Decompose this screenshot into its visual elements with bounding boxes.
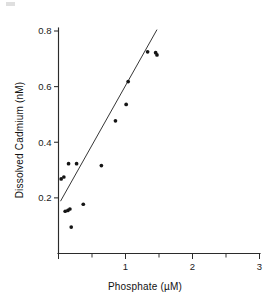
data-point [114,119,118,123]
data-point-group [59,50,159,229]
data-point [68,207,72,211]
data-point [146,50,150,54]
y-tick-label: 0.8 [38,25,51,36]
regression-line [61,30,157,202]
data-point [81,202,85,206]
data-point [75,162,79,166]
y-axis: 0.20.40.60.8 [38,25,58,253]
x-tick-label: 3 [257,261,262,272]
x-axis-title: Phosphate (µM) [108,281,182,292]
y-tick-label: 0.4 [38,137,51,148]
y-axis-title: Dissolved Cadmium (nM) [14,82,25,199]
data-point [124,103,128,107]
y-tick-label: 0.2 [38,192,51,203]
regression-line-segment [61,30,157,202]
data-point [126,80,130,84]
data-point [100,164,104,168]
y-tick-group [54,31,59,198]
x-tick-label: 1 [123,261,128,272]
scatter-plot-figure: 0.20.40.60.8 123 Phosphate (µM) Dissolve… [0,0,274,305]
data-point [62,175,66,179]
x-axis: 123 [58,254,262,272]
data-point [67,162,71,166]
data-point [155,53,159,57]
y-tick-label-group: 0.20.40.60.8 [38,25,51,203]
y-tick-label: 0.6 [38,81,51,92]
x-tick-group [59,254,260,260]
x-tick-label: 2 [190,261,195,272]
x-tick-label-group: 123 [123,261,262,272]
data-point [69,225,73,229]
plot-canvas: 0.20.40.60.8 123 Phosphate (µM) Dissolve… [0,0,274,305]
